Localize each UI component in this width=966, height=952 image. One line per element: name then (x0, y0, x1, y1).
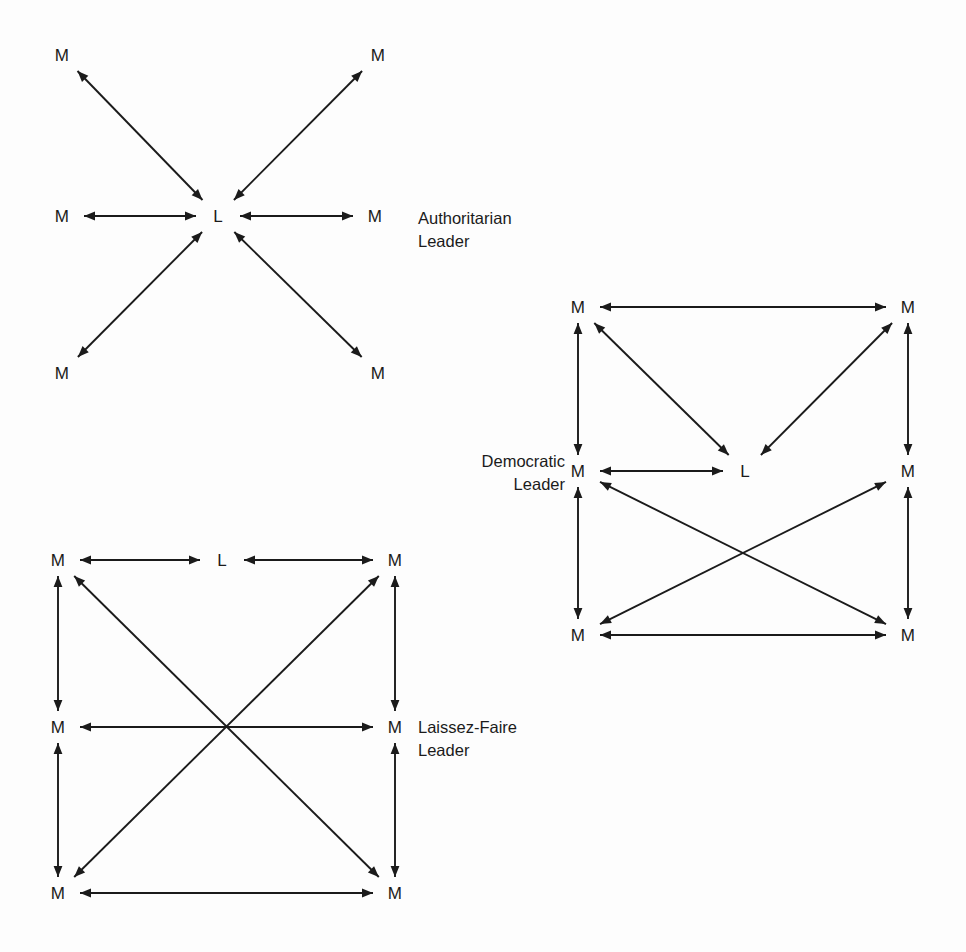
democratic-edge-middle-left-to-bottom-right-head-start (600, 482, 612, 491)
authoritarian-edge-leader-top-right-head-start (234, 189, 245, 200)
laissez-faire-member-middle-left: M (51, 719, 65, 736)
authoritarian-edge-leader-bottom-left-head-end (78, 346, 89, 357)
laissez-faire-edge-middle-left-to-middle-right-head-start (80, 723, 91, 732)
authoritarian-edge-leader-middle-left-head-start (185, 212, 196, 221)
authoritarian-member-middle-right: M (368, 208, 382, 225)
laissez-faire-edge-middle-left-to-middle-right (80, 723, 373, 732)
authoritarian-edge-leader-middle-left-head-end (84, 212, 95, 221)
laissez-faire-edge-top-left-to-leader (80, 556, 200, 565)
laissez-faire-edge-top-right-to-bottom-left-head-start (368, 576, 379, 587)
democratic-edge-top-left-to-middle-left-head-start (574, 323, 583, 334)
laissez-faire-edge-top-right-to-middle-right-head-start (391, 576, 400, 587)
democratic-member-bottom-left: M (571, 627, 585, 644)
laissez-faire-member-bottom-left: M (51, 885, 65, 902)
democratic-member-top-right: M (901, 299, 915, 316)
laissez-faire-edge-top-left-to-leader-head-end (189, 556, 200, 565)
laissez-faire-edge-bottom-left-to-bottom-right-head-end (362, 889, 373, 898)
democratic-edge-top-right-to-middle-right-head-start (904, 323, 913, 334)
authoritarian-edge-leader-top-left-head-end (78, 71, 89, 82)
democratic-edge-top-left-to-leader-head-start (594, 323, 605, 334)
democratic-edge-top-left-to-middle-left (574, 323, 583, 455)
laissez-faire-edge-middle-right-to-bottom-right-head-end (391, 866, 400, 877)
authoritarian-caption-line-2: Leader (418, 230, 512, 253)
democratic-member-bottom-right: M (901, 627, 915, 644)
democratic-edge-bottom-left-to-bottom-right-head-start (600, 631, 611, 640)
laissez-faire-edge-top-left-to-bottom-right-head-start (74, 576, 85, 587)
laissez-faire-member-top-left: M (51, 552, 65, 569)
laissez-faire-leader-top-center: L (217, 552, 227, 569)
democratic-edge-top-right-to-middle-right (904, 323, 913, 455)
authoritarian-edge-leader-bottom-left (78, 232, 202, 357)
laissez-faire-edge-middle-right-to-bottom-right (391, 743, 400, 877)
edges-laissez-faire (54, 556, 400, 898)
laissez-faire-edge-top-right-to-middle-right (391, 576, 400, 711)
laissez-faire-member-bottom-right: M (388, 885, 402, 902)
laissez-faire-edge-top-left-to-middle-left (54, 576, 63, 711)
laissez-faire-edge-top-right-to-bottom-left (74, 576, 379, 877)
authoritarian-leader-center: L (213, 208, 223, 225)
authoritarian-edge-leader-middle-right (240, 212, 353, 221)
laissez-faire-caption: Laissez-FaireLeader (418, 716, 517, 763)
democratic-edge-middle-right-to-bottom-left-head-start (874, 482, 886, 491)
authoritarian-edge-leader-top-left (78, 71, 203, 200)
democratic-caption-line-2: Leader (425, 473, 565, 496)
laissez-faire-edge-middle-left-to-middle-right-head-end (362, 723, 373, 732)
laissez-faire-edge-leader-to-top-right-head-start (244, 556, 255, 565)
democratic-edge-bottom-left-to-bottom-right-head-end (875, 631, 886, 640)
democratic-edge-middle-left-to-leader (600, 467, 723, 476)
laissez-faire-edge-top-right-to-middle-right-head-end (391, 700, 400, 711)
democratic-edge-middle-left-to-bottom-right-head-end (874, 615, 886, 624)
authoritarian-member-top-left: M (55, 47, 69, 64)
democratic-edge-top-left-to-leader (594, 323, 728, 455)
laissez-faire-member-top-right: M (388, 552, 402, 569)
authoritarian-member-bottom-left: M (55, 365, 69, 382)
democratic-member-top-left: M (571, 299, 585, 316)
laissez-faire-caption-line-2: Leader (418, 739, 517, 762)
laissez-faire-edge-top-left-to-middle-left-head-end (54, 700, 63, 711)
authoritarian-member-bottom-right: M (371, 365, 385, 382)
democratic-edge-middle-right-to-bottom-right-head-end (904, 608, 913, 619)
authoritarian-member-middle-left: M (55, 208, 69, 225)
democratic-edge-top-left-to-top-right (600, 303, 886, 312)
laissez-faire-edge-top-right-to-bottom-left-head-end (74, 866, 85, 877)
authoritarian-member-top-right: M (371, 47, 385, 64)
democratic-member-middle-right: M (901, 463, 915, 480)
democratic-edge-middle-left-to-bottom-left-head-end (574, 608, 583, 619)
democratic-edge-top-left-to-top-right-head-start (600, 303, 611, 312)
authoritarian-caption: AuthoritarianLeader (418, 207, 512, 254)
laissez-faire-edge-middle-left-to-bottom-left-head-end (54, 866, 63, 877)
democratic-edge-middle-right-to-bottom-left (600, 482, 886, 624)
democratic-edge-top-right-to-leader (761, 323, 892, 455)
laissez-faire-edge-top-left-to-leader-head-start (80, 556, 91, 565)
laissez-faire-edge-middle-left-to-bottom-left-head-start (54, 743, 63, 754)
democratic-leader-center: L (740, 463, 750, 480)
laissez-faire-edge-top-left-to-middle-left-head-start (54, 576, 63, 587)
leadership-network-figure: MMMLMMMMMMLMMMMLMMMMM AuthoritarianLeade… (0, 0, 966, 952)
laissez-faire-edge-leader-to-top-right-head-end (362, 556, 373, 565)
laissez-faire-edge-middle-right-to-bottom-right-head-start (391, 743, 400, 754)
democratic-edge-middle-left-to-bottom-right (600, 482, 886, 624)
laissez-faire-edge-top-left-to-bottom-right (74, 576, 379, 877)
democratic-edge-top-right-to-leader-head-end (761, 444, 772, 455)
authoritarian-edge-leader-top-right (234, 71, 362, 200)
laissez-faire-edge-middle-left-to-bottom-left (54, 743, 63, 877)
authoritarian-edge-leader-middle-left (84, 212, 196, 221)
laissez-faire-edge-top-left-to-bottom-right-head-end (368, 866, 379, 877)
laissez-faire-caption-line-1: Laissez-Faire (418, 716, 517, 739)
democratic-edge-top-left-to-middle-left-head-end (574, 444, 583, 455)
laissez-faire-edge-bottom-left-to-bottom-right (80, 889, 373, 898)
authoritarian-edge-leader-middle-right-head-start (240, 212, 251, 221)
authoritarian-edge-leader-bottom-right-head-end (351, 346, 362, 357)
democratic-caption-line-1: Democratic (425, 450, 565, 473)
democratic-edge-bottom-left-to-bottom-right (600, 631, 886, 640)
democratic-edge-top-right-to-leader-head-start (881, 323, 892, 334)
democratic-edge-middle-right-to-bottom-left-head-end (600, 615, 612, 624)
democratic-edge-middle-left-to-leader-head-start (600, 467, 611, 476)
democratic-edge-top-right-to-middle-right-head-end (904, 444, 913, 455)
authoritarian-edge-leader-top-left-head-start (192, 189, 203, 200)
democratic-edge-middle-left-to-bottom-left (574, 487, 583, 619)
democratic-edge-middle-left-to-leader-head-end (712, 467, 723, 476)
democratic-caption: DemocraticLeader (425, 450, 565, 497)
democratic-member-middle-left: M (571, 463, 585, 480)
authoritarian-edge-leader-top-right-head-end (351, 71, 362, 82)
